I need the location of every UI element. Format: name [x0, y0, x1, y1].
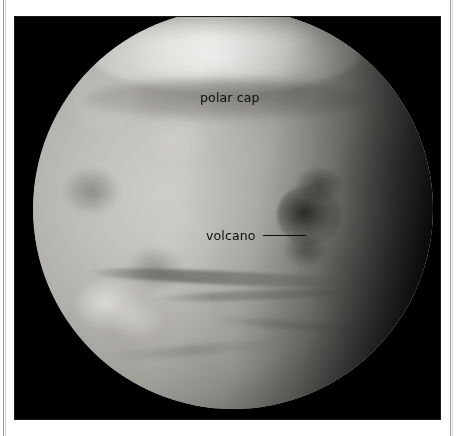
- page-frame-rule-left-inner: [5, 0, 6, 436]
- page-frame-rule-right: [450, 0, 451, 436]
- page-frame-rule-left: [3, 0, 4, 436]
- figure-page: polar cap volcano: [0, 0, 460, 436]
- feature-volcano-streak: [33, 17, 121, 27]
- annotation-volcano: volcano: [206, 228, 256, 243]
- mars-disk: [33, 17, 433, 409]
- limb-darkening: [33, 17, 433, 409]
- running-head: [0, 0, 460, 3]
- annotation-volcano-leader-line: [263, 235, 306, 236]
- annotation-polar-cap: polar cap: [200, 90, 260, 105]
- page-frame-rule-right-inner: [452, 0, 453, 436]
- photo-panel: polar cap volcano: [15, 17, 440, 419]
